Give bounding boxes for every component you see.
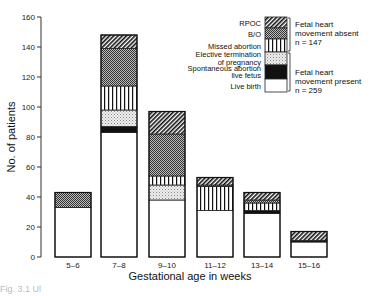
legend-label: B/O [248, 30, 261, 39]
bar-segment [149, 200, 185, 257]
y-tick-label: 0 [31, 253, 36, 262]
bar-13–14: 13–14 [244, 193, 280, 271]
bar-segment [101, 110, 137, 127]
legend-swatch [265, 17, 287, 28]
bar-segment [55, 208, 91, 258]
bar-segment [149, 134, 185, 176]
bar-5–6: 5–6 [55, 193, 91, 271]
y-tick-label: 160 [22, 13, 36, 22]
bar-segment [197, 178, 233, 186]
bar-segment [101, 49, 137, 87]
legend-label: RPOC [239, 19, 261, 28]
bracket-absent [288, 18, 290, 51]
stacked-bar-chart: 020406080100120140160 5–67–89–1011–1213–… [0, 0, 370, 296]
y-tick-label: 20 [26, 223, 35, 232]
x-tick-label: 11–12 [204, 261, 226, 270]
legend-swatch [265, 28, 287, 39]
bar-segment [291, 242, 327, 257]
bar-segment [197, 187, 233, 211]
legend-label: Live birth [231, 82, 261, 91]
x-tick-label: 9–10 [158, 261, 176, 270]
bar-segment [149, 176, 185, 185]
bar-9–10: 9–10 [149, 112, 185, 271]
bracket-present [288, 53, 290, 91]
bar-11–12: 11–12 [197, 178, 233, 271]
bar-segment [101, 35, 137, 49]
figure-caption: Fig. 3.1 Ul [0, 284, 41, 294]
legend-label: live fetus [231, 71, 261, 80]
axes: 020406080100120140160 [22, 13, 41, 262]
bar-segment [244, 203, 280, 211]
x-tick-label: 13–14 [251, 261, 274, 270]
y-tick-label: 140 [22, 43, 36, 52]
x-tick-label: 5–6 [66, 261, 80, 270]
y-tick-label: 80 [26, 133, 35, 142]
x-tick-label: 15–16 [298, 261, 321, 270]
group-label-absent: movement absent [295, 29, 359, 38]
legend-swatch [265, 39, 287, 52]
legend-swatch [265, 79, 287, 92]
group-label-absent: n = 147 [295, 38, 322, 47]
legend-swatch [265, 65, 287, 79]
group-label-present: Fetal heart [295, 68, 334, 77]
bar-segment [149, 112, 185, 135]
legend: RPOCB/OMissed abortionElective terminati… [188, 17, 362, 95]
y-tick-label: 60 [26, 163, 35, 172]
x-tick-label: 7–8 [112, 261, 126, 270]
bar-segment [55, 193, 91, 208]
bar-segment [101, 127, 137, 133]
legend-swatch [265, 52, 287, 65]
bar-segment [244, 214, 280, 258]
y-tick-label: 100 [22, 103, 36, 112]
bar-7–8: 7–8 [101, 35, 137, 270]
y-tick-label: 40 [26, 193, 35, 202]
group-label-present: n = 259 [295, 86, 322, 95]
group-label-present: movement present [295, 77, 362, 86]
bar-segment [244, 211, 280, 214]
bar-segment [101, 133, 137, 258]
bar-segment [291, 232, 327, 241]
bar-segment [197, 211, 233, 258]
bar-segment [244, 193, 280, 201]
bar-segment [101, 86, 137, 110]
group-label-absent: Fetal heart [295, 20, 334, 29]
x-axis-title: Gestational age in weeks [129, 270, 252, 282]
y-axis-title: No. of patients [5, 101, 17, 172]
bar-segment [149, 185, 185, 200]
bar-segment [244, 200, 280, 203]
bar-15–16: 15–16 [291, 232, 327, 271]
y-tick-label: 120 [22, 73, 36, 82]
